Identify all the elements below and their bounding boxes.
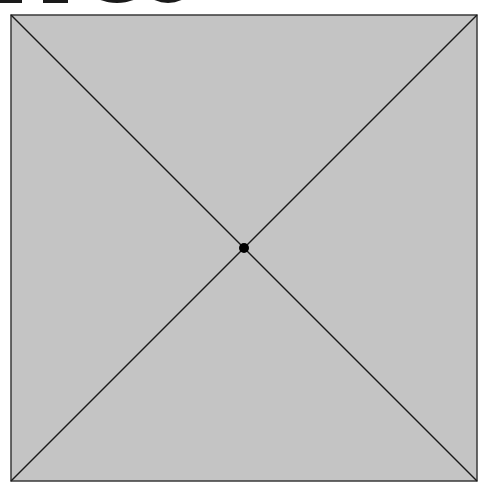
square-diagonals-diagram bbox=[0, 0, 481, 489]
center-point bbox=[239, 243, 249, 253]
